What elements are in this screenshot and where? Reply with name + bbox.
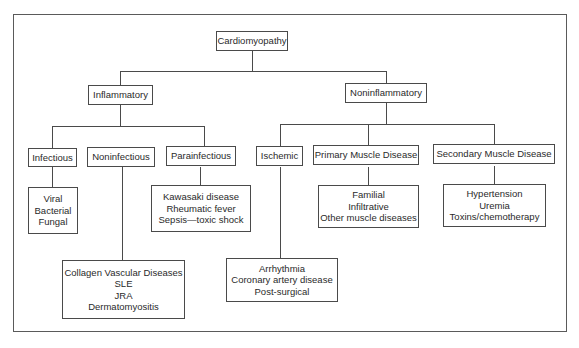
examples-secondary-muscle-disease: Hypertension Uremia Toxins/chemotherapy bbox=[443, 184, 546, 227]
connector bbox=[200, 167, 201, 185]
connector bbox=[204, 126, 205, 148]
node-noninfectious: Noninfectious bbox=[87, 147, 155, 167]
connector bbox=[122, 167, 123, 260]
connector bbox=[386, 103, 387, 124]
examples-primary-muscle-disease: Familial Infiltrative Other muscle disea… bbox=[318, 185, 419, 228]
connector bbox=[386, 71, 387, 83]
example-item: Sepsis—toxic shock bbox=[158, 214, 243, 226]
node-secondary-muscle-disease: Secondary Muscle Disease bbox=[433, 144, 555, 164]
node-label: Secondary Muscle Disease bbox=[436, 148, 551, 160]
example-item: Infiltrative bbox=[348, 201, 389, 213]
connector bbox=[280, 167, 281, 258]
example-item: Collagen Vascular Diseases bbox=[64, 267, 182, 279]
example-item: Arrhythmia bbox=[259, 263, 305, 275]
node-infectious: Infectious bbox=[28, 148, 77, 167]
node-cardiomyopathy: Cardiomyopathy bbox=[216, 31, 288, 51]
connector bbox=[252, 50, 253, 71]
connector bbox=[52, 126, 53, 148]
connector bbox=[52, 126, 204, 127]
connector bbox=[52, 167, 53, 187]
node-inflammatory: Inflammatory bbox=[88, 85, 153, 105]
example-item: Toxins/chemotherapy bbox=[450, 211, 540, 223]
example-item: Coronary artery disease bbox=[231, 274, 332, 286]
connector bbox=[494, 166, 495, 184]
example-item: JRA bbox=[115, 290, 133, 302]
example-item: Dermatomyositis bbox=[88, 301, 159, 313]
connector bbox=[120, 71, 121, 85]
connector bbox=[280, 124, 494, 125]
example-item: Bacterial bbox=[35, 205, 72, 217]
connector bbox=[120, 105, 121, 126]
node-label: Infectious bbox=[32, 152, 73, 164]
examples-ischemic: Arrhythmia Coronary artery disease Post-… bbox=[226, 258, 338, 302]
examples-infectious: Viral Bacterial Fungal bbox=[28, 187, 78, 234]
examples-parainfectious: Kawasaki disease Rheumatic fever Sepsis—… bbox=[151, 185, 251, 232]
example-item: Viral bbox=[44, 193, 63, 205]
connector bbox=[368, 167, 369, 185]
example-item: Rheumatic fever bbox=[166, 203, 235, 215]
node-label: Noninflammatory bbox=[350, 87, 422, 99]
example-item: SLE bbox=[115, 278, 133, 290]
example-item: Kawasaki disease bbox=[163, 191, 239, 203]
node-label: Parainfectious bbox=[171, 150, 231, 162]
node-label: Inflammatory bbox=[93, 89, 148, 101]
node-label: Cardiomyopathy bbox=[217, 35, 286, 47]
node-ischemic: Ischemic bbox=[256, 146, 303, 166]
connector bbox=[120, 71, 386, 72]
node-parainfectious: Parainfectious bbox=[166, 146, 236, 166]
examples-noninfectious: Collagen Vascular Diseases SLE JRA Derma… bbox=[62, 260, 185, 319]
example-item: Uremia bbox=[479, 200, 510, 212]
node-primary-muscle-disease: Primary Muscle Disease bbox=[313, 145, 419, 165]
node-label: Primary Muscle Disease bbox=[315, 149, 417, 161]
example-item: Fungal bbox=[38, 216, 67, 228]
example-item: Familial bbox=[352, 189, 385, 201]
example-item: Post-surgical bbox=[255, 286, 310, 298]
example-item: Other muscle diseases bbox=[320, 212, 417, 224]
node-label: Noninfectious bbox=[92, 151, 150, 163]
example-item: Hypertension bbox=[467, 188, 523, 200]
node-noninflammatory: Noninflammatory bbox=[345, 83, 427, 103]
connector bbox=[280, 124, 281, 148]
node-label: Ischemic bbox=[261, 150, 298, 162]
